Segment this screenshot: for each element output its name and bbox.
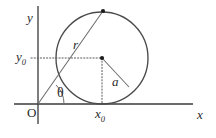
point-on-circle-dot	[101, 9, 105, 13]
y-axis-label: y	[27, 11, 33, 24]
circle-center-dot	[100, 56, 104, 60]
y0-label-subscript: 0	[22, 57, 26, 67]
radius-r-label: r	[73, 38, 78, 51]
x0-label: x0	[95, 107, 105, 123]
figure-canvas: y x O y0 x0 r a θ	[0, 0, 216, 138]
origin-label: O	[27, 106, 36, 119]
x-axis-label: x	[197, 108, 203, 121]
radius-a-label: a	[112, 75, 119, 88]
y0-label: y0	[16, 50, 26, 66]
x0-label-subscript: 0	[101, 114, 105, 124]
theta-label: θ	[57, 86, 64, 100]
